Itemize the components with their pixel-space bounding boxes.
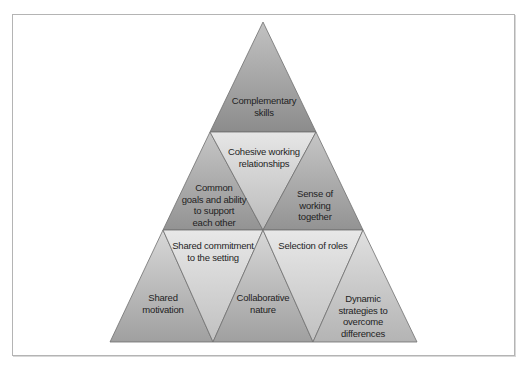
label-complementary-skills: Complementary skills xyxy=(232,95,296,118)
label-collaborative-nature: Collaborative nature xyxy=(237,292,290,315)
label-common-goals: Common goals and ability to support each… xyxy=(182,182,247,228)
label-dynamic-strategies: Dynamic strategies to overcome differenc… xyxy=(338,293,387,339)
label-shared-commitment: Shared commitment to the setting xyxy=(172,240,254,263)
label-selection-of-roles: Selection of roles xyxy=(278,240,347,252)
label-sense-of-working: Sense of working together xyxy=(297,188,333,223)
label-cohesive-working: Cohesive working relationships xyxy=(228,146,300,169)
label-shared-motivation: Shared motivation xyxy=(142,292,183,315)
